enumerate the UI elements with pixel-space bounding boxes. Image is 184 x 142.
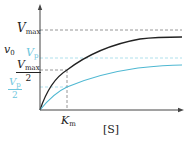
x-axis-label: [S]	[103, 124, 119, 135]
km-label-sub: m	[69, 120, 76, 128]
vmax-label-sub: max	[26, 28, 41, 36]
vp-half-den: 2	[8, 89, 22, 100]
vmax-half-num: Vmax	[16, 59, 41, 72]
vmax-half-letter: V	[17, 58, 25, 71]
km-label-letter: K	[61, 114, 69, 127]
y-axis-arrow-icon	[38, 4, 42, 10]
vp-half-sub: p	[16, 81, 20, 89]
vp-curve	[40, 65, 182, 110]
y-axis-label-sub: 0	[10, 49, 14, 57]
km-label: Km	[61, 115, 76, 128]
vp-label-letter: V	[26, 46, 34, 59]
vmax-label-letter: V	[17, 21, 26, 35]
vp-half-num: Vp	[8, 77, 22, 89]
vmax-half-sub: max	[25, 64, 40, 72]
vp-half-label: Vp 2	[8, 77, 22, 100]
vmax-label: Vmax	[17, 22, 40, 36]
x-axis-arrow-icon	[178, 108, 184, 112]
y-axis-label: v0	[4, 44, 15, 57]
